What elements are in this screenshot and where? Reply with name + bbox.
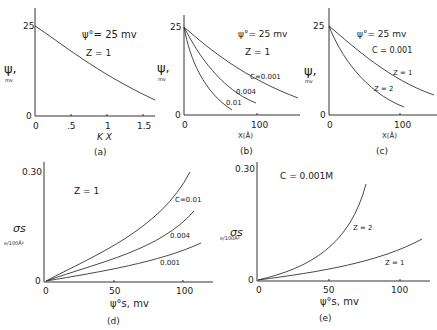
- y-axis-label: ψ,: [157, 60, 170, 75]
- annotation-psi: ψ°= 25 mv: [82, 29, 137, 40]
- caption-e: (e): [319, 313, 332, 323]
- panel-e: 0.30 0 0 50 100 ψ°s, mv σs e/100Å² C = 0…: [220, 162, 430, 323]
- x-tick-100: 100: [251, 120, 268, 130]
- y-axis-unit: e/100Å²: [4, 240, 24, 246]
- label-z2: Z = 2: [353, 224, 373, 232]
- panel-d: 0.30 0 0 50 100 ψ°s, mv σs e/100Å² Z = 1…: [4, 162, 213, 326]
- y-axis-unit: e/100Å²: [220, 235, 240, 241]
- x-tick-50: 50: [109, 286, 121, 296]
- curve-z2: [258, 184, 366, 280]
- annotation-z: Z = 1: [74, 186, 99, 196]
- y-tick-0: 0: [26, 111, 32, 121]
- label-c0004: 0.004: [236, 88, 257, 96]
- x-tick-15: 1.5: [137, 121, 151, 131]
- y-axis-unit: mv: [5, 77, 13, 83]
- y-tick-030: 0.30: [235, 164, 255, 174]
- y-axis-unit: mv: [158, 76, 166, 82]
- y-axis-label: ψ,: [4, 61, 17, 76]
- annotation-psi: ψ°= 25 mv: [238, 29, 288, 39]
- x-axis-label: K X: [97, 132, 113, 142]
- x-tick-100: 100: [391, 285, 408, 295]
- annotation-z: Z = 1: [245, 47, 270, 57]
- annotation-c: C = 0.001M: [280, 171, 333, 181]
- annotation-z: Z = 1: [86, 48, 111, 58]
- x-tick-100: 100: [394, 120, 411, 130]
- y-tick-25: 25: [170, 22, 181, 32]
- label-c0001: 0.001: [160, 259, 180, 267]
- label-c001: C=0.01: [175, 196, 201, 204]
- label-z1: Z = 1: [393, 69, 413, 77]
- figure: 25 0 0 .5 1 1.5 K X ψ, mv ψ°= 25 mv Z = …: [0, 0, 437, 330]
- y-tick-0: 0: [320, 110, 326, 120]
- curve-c001: [184, 27, 232, 110]
- caption-c: (c): [376, 146, 388, 156]
- annotation-c: C = 0.001: [372, 46, 412, 55]
- label-c0001: C=0.001: [250, 73, 281, 81]
- y-tick-0: 0: [35, 276, 41, 286]
- y-tick-030: 0.30: [22, 167, 42, 177]
- x-tick-0: 0: [256, 285, 262, 295]
- label-z1: Z = 1: [385, 259, 405, 267]
- x-tick-0: 0: [33, 121, 39, 131]
- y-tick-0: 0: [175, 110, 181, 120]
- x-tick-50: 50: [323, 285, 335, 295]
- label-c001: 0.01: [226, 99, 242, 107]
- annotation-psi: ψ°= 25 mv: [357, 29, 407, 39]
- y-axis-label: σs: [13, 222, 26, 235]
- x-axis-label: ψ°s, mv: [320, 296, 359, 307]
- y-tick-25: 25: [313, 21, 324, 31]
- panel-a: 25 0 0 .5 1 1.5 K X ψ, mv ψ°= 25 mv Z = …: [4, 8, 155, 157]
- curve-c0004: [46, 211, 194, 281]
- caption-d: (d): [107, 316, 120, 326]
- x-tick-1: 1: [105, 121, 111, 131]
- x-tick-100: 100: [176, 286, 193, 296]
- x-axis-label: X(Å): [238, 131, 253, 140]
- x-tick-0: 0: [327, 120, 333, 130]
- panel-c: 25 0 0 100 X(Å) ψ, mv ψ°= 25 mv C = 0.00…: [304, 8, 437, 156]
- caption-a: (a): [94, 147, 107, 157]
- panel-b: 25 0 0 100 X(Å) ψ, mv ψ°= 25 mv Z = 1 C=…: [157, 15, 300, 156]
- y-axis-label: ψ,: [304, 63, 317, 78]
- y-tick-25: 25: [23, 21, 34, 31]
- x-tick-0: 0: [182, 120, 188, 130]
- y-tick-0: 0: [248, 275, 254, 285]
- label-c0004: 0.004: [170, 232, 191, 240]
- x-tick-05: .5: [67, 121, 76, 131]
- y-axis-unit: mv: [305, 78, 313, 84]
- label-z2: Z = 2: [374, 85, 394, 93]
- x-tick-0: 0: [43, 286, 49, 296]
- caption-b: (b): [240, 146, 253, 156]
- x-axis-label: ψ°s, mv: [110, 298, 149, 309]
- x-axis-label: X(Å): [382, 131, 397, 140]
